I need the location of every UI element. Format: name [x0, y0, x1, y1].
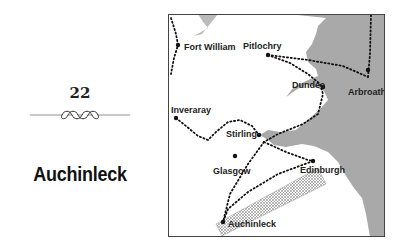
label-arbroath: Arbroath: [348, 87, 385, 97]
label-dundee: Dundee: [292, 80, 325, 90]
ornament-divider-icon: [30, 108, 130, 122]
label-glasgow: Glasgow: [213, 166, 252, 176]
route-map: Fort William Pitlochry Arbroath Dundee I…: [168, 14, 385, 237]
sea-area: [194, 14, 218, 36]
chapter-number: 22: [0, 84, 160, 102]
label-edinburgh: Edinburgh: [300, 165, 345, 175]
label-stirling: Stirling: [226, 129, 257, 139]
label-auchinleck: Auchinleck: [228, 219, 277, 229]
label-pitlochry: Pitlochry: [243, 41, 282, 51]
chapter-title: Auchinleck: [8, 163, 152, 186]
label-inveraray: Inveraray: [171, 105, 211, 115]
label-fort-william: Fort William: [184, 42, 235, 52]
